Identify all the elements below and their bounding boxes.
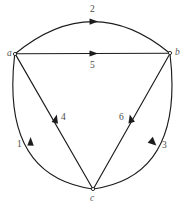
edge-3-arrowhead <box>148 137 157 146</box>
edge-6-arrowhead <box>128 114 135 123</box>
diagram-canvas: a b c 2 5 1 3 4 6 <box>0 0 185 212</box>
vertex-label-a: a <box>7 49 12 59</box>
vertex-b-dot <box>168 51 171 54</box>
vertex-label-c: c <box>90 194 94 204</box>
edge-5-arrowhead <box>90 50 99 56</box>
edge-2-arrowhead <box>90 19 99 25</box>
vertex-c-dot <box>91 187 94 190</box>
edge-label-5: 5 <box>90 61 95 71</box>
edge-label-2: 2 <box>90 5 95 15</box>
edge-label-3: 3 <box>162 141 167 151</box>
vertex-a-dot <box>13 52 16 55</box>
vertex-label-b: b <box>175 48 180 58</box>
edge-label-1: 1 <box>17 140 22 150</box>
edge-label-6: 6 <box>119 113 124 123</box>
edge-label-4: 4 <box>61 113 66 123</box>
edge-2-path <box>16 22 170 54</box>
edge-1-arrowhead <box>27 137 34 146</box>
graph-svg <box>0 0 185 212</box>
